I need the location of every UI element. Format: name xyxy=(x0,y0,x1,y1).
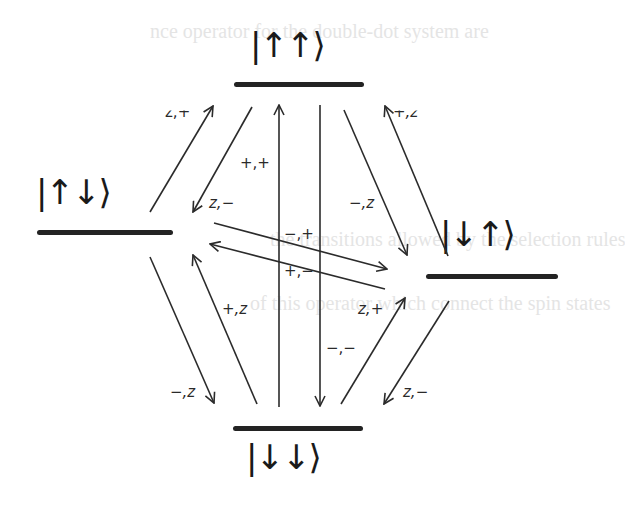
label-plus-minus: +,− xyxy=(284,263,314,279)
label-minus-minus: −,− xyxy=(326,340,356,356)
arrow-upup-to-downup xyxy=(344,110,407,255)
arrow-downup-to-upup xyxy=(385,106,448,256)
label-plus-z-left: +,z xyxy=(222,301,247,317)
label-minus-z-right: −,z xyxy=(349,195,374,211)
arrow-updown-to-upup xyxy=(150,106,213,212)
arrow-updown-to-downdown xyxy=(150,257,214,403)
label-minus-plus: −,+ xyxy=(284,226,314,242)
label-z-minus-top: z,− xyxy=(209,195,234,211)
label-minus-z-left: −,z xyxy=(170,384,195,400)
label-z-plus-bottom: z,+ xyxy=(358,301,383,317)
label-z-minus-bottom: z,− xyxy=(403,384,428,400)
label-plus-plus: +,+ xyxy=(240,155,270,171)
arrow-downdown-to-updown xyxy=(193,255,257,404)
